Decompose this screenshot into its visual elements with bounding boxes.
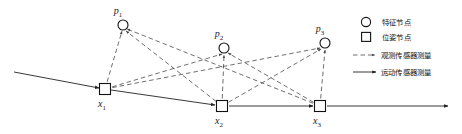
legend-item-feature-node: 特征节点 — [361, 17, 411, 27]
observation-edge-x1-p1 — [105, 31, 122, 89]
legend-item-observation: 观测传感器测量 — [353, 51, 432, 60]
feature-node-p2 — [219, 43, 229, 53]
pose-node-group — [100, 84, 326, 112]
feature-node-label-p2: p2 — [214, 28, 224, 42]
feature-node-p1 — [118, 20, 128, 30]
legend-label-pose-node: 位姿节点 — [382, 33, 412, 42]
motion-edge-start-x1 — [14, 72, 99, 88]
legend: 特征节点 位姿节点 观测传感器测量 运动传感器测量 — [353, 17, 432, 77]
observation-edge-x3-p2 — [228, 53, 320, 106]
pose-node-x3 — [315, 101, 326, 112]
observation-edge-x1-p2 — [105, 54, 222, 89]
slam-factor-graph-figure: p1 p2 p3 x1 x2 x3 特征节点 位姿节点 观测传感器测量 — [0, 0, 462, 134]
motion-edge-x1-x2 — [111, 90, 215, 105]
pose-node-x2 — [217, 101, 228, 112]
square-outline-icon — [362, 32, 371, 41]
pose-node-label-x2: x2 — [214, 115, 223, 129]
legend-item-pose-node: 位姿节点 — [362, 32, 412, 42]
pose-node-x1 — [100, 84, 111, 95]
circle-outline-icon — [361, 17, 370, 26]
feature-node-p3 — [320, 38, 330, 48]
feature-node-label-p1: p1 — [113, 5, 123, 19]
legend-item-motion: 运动传感器测量 — [353, 68, 432, 77]
legend-label-observation: 观测传感器测量 — [381, 51, 432, 60]
legend-label-feature-node: 特征节点 — [382, 18, 412, 27]
pose-node-label-x3: x3 — [312, 115, 321, 129]
feature-node-label-p3: p3 — [315, 23, 325, 37]
observation-edge-x2-p2 — [222, 55, 224, 106]
observation-edge-x2-p1 — [126, 31, 222, 106]
observation-edge-x3-p3 — [320, 50, 325, 106]
diagram-canvas: p1 p2 p3 x1 x2 x3 特征节点 位姿节点 观测传感器测量 — [0, 0, 462, 134]
pose-node-label-x1: x1 — [97, 98, 106, 112]
observation-edge-group — [105, 29, 325, 106]
feature-node-group — [118, 20, 330, 53]
legend-label-motion: 运动传感器测量 — [381, 68, 432, 77]
